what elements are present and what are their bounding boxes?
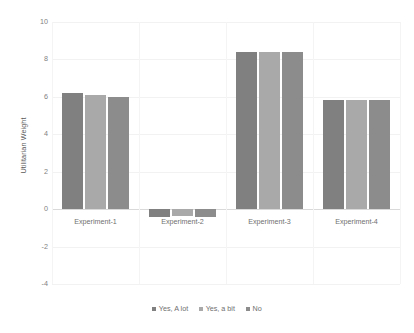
- bar[interactable]: [108, 97, 129, 209]
- legend-swatch-icon: [199, 307, 203, 311]
- y-axis-tick-label: 8: [24, 56, 48, 63]
- x-axis-tick-label: Experiment-2: [139, 218, 226, 225]
- bar[interactable]: [369, 100, 390, 209]
- legend-label: Yes, A lot: [159, 305, 188, 312]
- bar-group: [313, 22, 400, 284]
- bar-group: [139, 22, 226, 284]
- gridline: [52, 284, 400, 285]
- y-axis-tick-label: 6: [24, 93, 48, 100]
- bar-group: [226, 22, 313, 284]
- legend-item[interactable]: Yes, a bit: [199, 305, 235, 312]
- bar[interactable]: [149, 209, 170, 216]
- chart-legend: Yes, A lotYes, a bitNo: [0, 305, 414, 312]
- x-axis-tick-label: Experiment-1: [52, 218, 139, 225]
- y-axis-tick-label: -2: [24, 243, 48, 250]
- bar[interactable]: [282, 52, 303, 209]
- legend-swatch-icon: [246, 307, 250, 311]
- y-axis-tick-labels: 1086420-2-4: [20, 22, 48, 284]
- y-axis-tick-label: 10: [24, 18, 48, 25]
- x-axis-tick-label: Experiment-3: [226, 218, 313, 225]
- bar[interactable]: [236, 52, 257, 209]
- legend-label: No: [252, 305, 261, 312]
- bar[interactable]: [346, 100, 367, 209]
- bar-chart: Utilitarian Weight 1086420-2-4 Experimen…: [0, 0, 414, 333]
- bar[interactable]: [195, 209, 216, 216]
- y-axis-tick-label: 2: [24, 168, 48, 175]
- legend-item[interactable]: Yes, A lot: [152, 305, 188, 312]
- legend-swatch-icon: [152, 307, 156, 311]
- category-separator: [400, 22, 401, 284]
- bar[interactable]: [259, 52, 280, 209]
- bar[interactable]: [323, 100, 344, 209]
- legend-item[interactable]: No: [246, 305, 262, 312]
- y-axis-tick-label: -4: [24, 280, 48, 287]
- bar[interactable]: [172, 209, 193, 216]
- y-axis-tick-label: 0: [24, 206, 48, 213]
- x-axis-tick-label: Experiment-4: [313, 218, 400, 225]
- plot-area: [52, 22, 400, 284]
- legend-label: Yes, a bit: [206, 305, 235, 312]
- bar[interactable]: [85, 95, 106, 209]
- y-axis-tick-label: 4: [24, 131, 48, 138]
- bar-group: [52, 22, 139, 284]
- bar[interactable]: [62, 93, 83, 209]
